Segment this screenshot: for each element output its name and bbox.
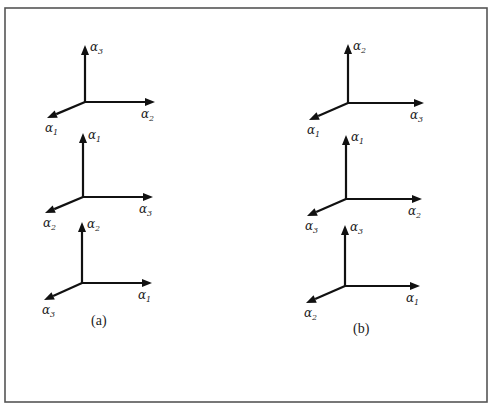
diagonal-axis-label: α1 (307, 123, 320, 139)
up-arrowhead-icon (341, 225, 349, 235)
right-axis-label-symbol: α (138, 288, 146, 302)
right-axis-label: α1 (406, 291, 419, 307)
diagonal-axis-label-symbol: α (304, 306, 312, 320)
up-arrowhead-icon (342, 135, 350, 145)
diagonal-axis (315, 286, 345, 299)
right-arrowhead-icon (145, 98, 155, 106)
diagonal-axis-label-symbol: α (305, 219, 313, 233)
up-axis-label-symbol: α (88, 128, 96, 142)
up-axis-label: α2 (353, 39, 366, 55)
right-axis-label-subscript: 3 (147, 209, 152, 218)
diagonal-axis-label-subscript: 3 (313, 226, 318, 235)
diagonal-axis-label-symbol: α (45, 121, 53, 135)
right-arrowhead-icon (410, 282, 420, 290)
up-axis-label: α3 (350, 220, 363, 236)
right-axis-label: α1 (138, 288, 151, 304)
caption-b: (b) (353, 321, 370, 337)
axes-frame: α3α1α2 (304, 220, 420, 322)
diagonal-axis (316, 199, 346, 212)
diagonal-arrowhead-icon (309, 112, 320, 120)
diagonal-axis-label-subscript: 1 (315, 130, 320, 139)
diagonal-axis (318, 103, 348, 116)
diagonal-axis-label-subscript: 2 (50, 223, 56, 232)
up-axis-label: α2 (87, 217, 100, 233)
up-axis-label-subscript: 3 (358, 227, 363, 236)
up-arrowhead-icon (81, 45, 89, 55)
diagonal-axis-label: α2 (43, 216, 56, 232)
up-axis-label-subscript: 2 (360, 46, 366, 55)
diagonal-axis-label: α2 (304, 306, 317, 322)
diagonal-axis-label: α3 (42, 303, 55, 319)
up-arrowhead-icon (344, 44, 352, 54)
panel-b: α2α3α1α1α2α3α3α1α2 (304, 39, 424, 322)
diagonal-arrowhead-icon (307, 208, 318, 216)
diagonal-axis (54, 197, 83, 209)
right-axis-label-symbol: α (408, 204, 416, 218)
right-axis-label-subscript: 1 (414, 298, 419, 307)
right-arrowhead-icon (414, 99, 424, 107)
right-axis-label-symbol: α (139, 202, 147, 216)
right-axis-label: α3 (139, 202, 152, 218)
up-axis-label-symbol: α (353, 39, 361, 53)
right-arrowhead-icon (412, 195, 422, 203)
right-axis-label: α2 (141, 107, 154, 123)
up-axis-label-symbol: α (350, 220, 358, 234)
diagonal-axis (56, 102, 85, 114)
up-axis-label: α1 (88, 128, 101, 144)
diagonal-axis-label-symbol: α (42, 303, 50, 317)
right-axis-label-subscript: 2 (415, 211, 421, 220)
up-axis-label-symbol: α (87, 217, 95, 231)
diagonal-axis-label-subscript: 3 (50, 310, 55, 319)
right-axis-label-subscript: 2 (148, 114, 154, 123)
axes-frame: α1α3α2 (43, 128, 153, 232)
right-arrowhead-icon (142, 279, 152, 287)
right-axis-label-subscript: 3 (418, 115, 423, 124)
right-axis-label-symbol: α (141, 107, 149, 121)
diagonal-axis-label-symbol: α (307, 123, 315, 137)
panel-a: α3α2α1α1α3α2α2α1α3 (42, 40, 155, 319)
up-axis-label: α1 (351, 130, 364, 146)
up-axis-label-subscript: 3 (98, 47, 103, 56)
up-axis-label-subscript: 2 (94, 224, 100, 233)
axes-frame: α1α2α3 (305, 130, 422, 235)
diagonal-arrowhead-icon (45, 205, 56, 213)
diagonal-arrowhead-icon (44, 292, 55, 300)
coordinate-frames-figure: α3α2α1α1α3α2α2α1α3α2α3α1α1α2α3α3α1α2 (a)… (0, 0, 498, 411)
diagonal-arrowhead-icon (306, 295, 317, 303)
up-axis-label-symbol: α (90, 40, 98, 54)
diagonal-axis-label-subscript: 2 (311, 313, 317, 322)
up-axis-label-subscript: 1 (359, 137, 364, 146)
right-arrowhead-icon (143, 193, 153, 201)
right-axis-label: α2 (408, 204, 421, 220)
diagonal-axis (53, 283, 82, 296)
right-axis-label-symbol: α (410, 108, 418, 122)
axes-frame: α2α3α1 (307, 39, 424, 139)
right-axis-label-symbol: α (406, 291, 414, 305)
diagonal-axis-label: α3 (305, 219, 318, 235)
up-arrowhead-icon (78, 222, 86, 232)
frames-layer: α3α2α1α1α3α2α2α1α3α2α3α1α1α2α3α3α1α2 (42, 39, 424, 322)
up-arrowhead-icon (79, 133, 87, 143)
axes-frame: α2α1α3 (42, 217, 152, 319)
diagonal-axis-label-symbol: α (43, 216, 51, 230)
right-axis-label: α3 (410, 108, 423, 124)
caption-a: (a) (91, 313, 107, 329)
up-axis-label: α3 (90, 40, 103, 56)
diagonal-axis-label: α1 (45, 121, 58, 137)
right-axis-label-subscript: 1 (146, 295, 151, 304)
up-axis-label-symbol: α (351, 130, 359, 144)
diagonal-axis-label-subscript: 1 (53, 128, 58, 137)
up-axis-label-subscript: 1 (96, 135, 101, 144)
axes-frame: α3α2α1 (45, 40, 155, 137)
diagonal-arrowhead-icon (47, 110, 58, 118)
